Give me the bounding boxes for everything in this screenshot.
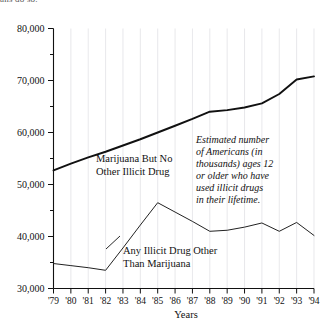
note-line-2: of Americans (in — [196, 146, 262, 158]
estimate-note-annotation: Estimated number of Americans (in thousa… — [195, 134, 273, 205]
leader-line-lower — [106, 236, 120, 249]
x-tick-label-91: '91 — [256, 296, 267, 306]
y-tick-label-50000: 50,000 — [17, 179, 45, 190]
x-tick-label-94: '94 — [308, 296, 319, 306]
x-tick-label-83: '83 — [117, 296, 128, 306]
series-label-lower-line-2: Than Marijuana — [123, 258, 191, 269]
chart-figure: ans do so. 30,00040,00050,00060,00070,00… — [0, 0, 323, 326]
y-tick-label-70000: 70,000 — [17, 75, 45, 86]
x-tick-label-84: '84 — [135, 296, 146, 306]
y-tick-label-80000: 80,000 — [17, 23, 45, 34]
series-label-other-illicit: Any Illicit Drug Other Than Marijuana — [123, 245, 218, 269]
y-tick-label-40000: 40,000 — [17, 231, 45, 242]
x-tick-label-86: '86 — [169, 296, 180, 306]
y-axis-tick-labels: 30,00040,00050,00060,00070,00080,000 — [17, 23, 45, 294]
series-label-upper-line-2: Other Illicit Drug — [96, 166, 170, 177]
x-tick-label-85: '85 — [152, 296, 163, 306]
note-line-6: in their lifetime. — [196, 194, 260, 205]
x-tick-label-87: '87 — [187, 296, 198, 306]
x-axis-title: Years — [174, 309, 197, 320]
x-tick-label-93: '93 — [291, 296, 302, 306]
note-line-1: Estimated number — [195, 134, 269, 145]
x-axis-ticks — [54, 289, 315, 294]
x-tick-label-82: '82 — [100, 296, 111, 306]
series-label-upper-line-1: Marijuana But No — [96, 153, 172, 164]
x-tick-label-81: '81 — [83, 296, 94, 306]
series-line-marijuana-only — [54, 76, 315, 170]
note-line-4: or older who have — [196, 170, 270, 181]
x-tick-label-80: '80 — [65, 296, 76, 306]
note-line-5: used illicit drugs — [196, 182, 263, 193]
x-tick-label-88: '88 — [204, 296, 215, 306]
y-tick-label-30000: 30,000 — [17, 283, 45, 294]
note-line-3: thousands) ages 12 — [196, 158, 273, 170]
x-tick-label-90: '90 — [239, 296, 250, 306]
series-label-lower-line-1: Any Illicit Drug Other — [123, 245, 218, 256]
x-tick-label-79: '79 — [48, 296, 59, 306]
x-axis-tick-labels: '79'80'81'82'83'84'85'86'87'88'89'90'91'… — [48, 296, 320, 306]
x-tick-label-92: '92 — [274, 296, 285, 306]
x-tick-label-89: '89 — [222, 296, 233, 306]
series-label-marijuana-only: Marijuana But No Other Illicit Drug — [96, 153, 172, 177]
line-chart: 30,00040,00050,00060,00070,00080,000 '79… — [0, 0, 323, 326]
y-tick-label-60000: 60,000 — [17, 127, 45, 138]
y-axis-ticks — [48, 29, 54, 289]
